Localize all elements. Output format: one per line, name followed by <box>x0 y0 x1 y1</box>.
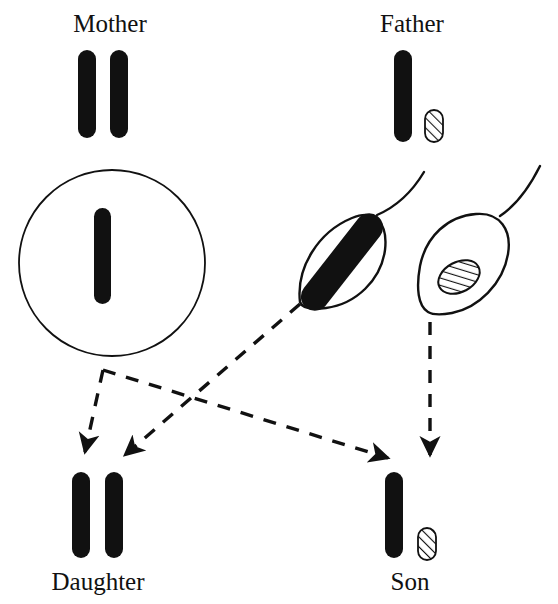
father-chromosome-x <box>394 50 412 142</box>
son-label: Son <box>391 568 430 595</box>
father-chromosome-y <box>425 110 443 142</box>
egg-cell-membrane <box>19 170 205 356</box>
egg-chromosome-x <box>94 208 111 304</box>
daughter-label: Daughter <box>51 568 145 595</box>
daughter-chromosome-x2 <box>105 472 123 558</box>
chromosome-inheritance-diagram: Mother Father Daughter <box>0 0 558 604</box>
diagram-canvas: Mother Father Daughter <box>0 0 558 604</box>
father-label: Father <box>380 10 445 37</box>
mother-chromosome-x2 <box>110 50 128 138</box>
egg-cell-group <box>19 170 205 356</box>
son-chromosome-x <box>385 472 403 558</box>
daughter-chromosome-x1 <box>72 472 90 558</box>
mother-chromosome-x1 <box>78 50 96 138</box>
mother-label: Mother <box>73 10 147 37</box>
son-chromosome-y <box>418 528 436 560</box>
